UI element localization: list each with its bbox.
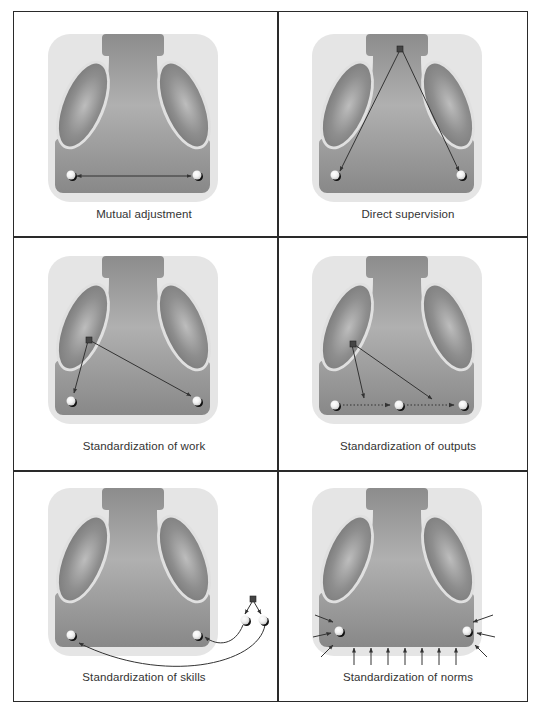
- panel-label: Standardization of norms: [277, 671, 539, 683]
- organization-diagram: [13, 465, 275, 696]
- panel-direct-supervision: Direct supervision: [277, 11, 539, 236]
- organization-diagram: [277, 11, 539, 236]
- organization-diagram: [277, 465, 539, 696]
- panel-label: Standardization of outputs: [277, 440, 539, 452]
- technostructure-node-icon: [86, 337, 92, 343]
- panel-label: Mutual adjustment: [13, 208, 275, 220]
- organization-diagram: [13, 233, 275, 466]
- trained-operator-node: [259, 616, 270, 627]
- panel-label: Standardization of skills: [13, 671, 275, 683]
- panel-mutual-adjustment: Mutual adjustment: [13, 11, 275, 236]
- panel-standardization-of-skills: Standardization of skills: [13, 471, 275, 702]
- training-node-icon: [250, 596, 256, 602]
- panel-label: Standardization of work: [13, 440, 275, 452]
- organization-diagram: [13, 11, 275, 236]
- panel-standardization-of-work: Standardization of work: [13, 237, 275, 470]
- technostructure-node-icon: [350, 341, 356, 347]
- panel-standardization-of-outputs: Standardization of outputs: [277, 237, 539, 470]
- panel-standardization-of-norms: Standardization of norms: [277, 471, 539, 702]
- trained-operator-node: [241, 616, 252, 627]
- panel-label: Direct supervision: [277, 208, 539, 220]
- manager-node-icon: [397, 46, 403, 52]
- organization-diagram: [277, 233, 539, 466]
